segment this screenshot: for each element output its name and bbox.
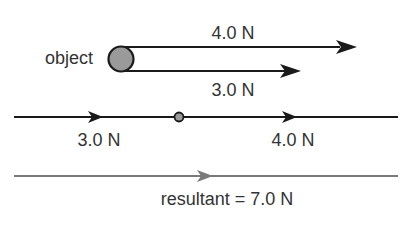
force-4n-label: 4.0 N [211,23,254,43]
resultant-label: resultant = 7.0 N [161,189,294,209]
object-forces-group: object 4.0 N 3.0 N [45,23,357,100]
object-circle [109,47,134,72]
combined-right-label: 4.0 N [271,130,314,150]
force-3n-label: 3.0 N [211,80,254,100]
combined-forces-group: 3.0 N 4.0 N [14,111,398,150]
force-diagram: object 4.0 N 3.0 N 3.0 N 4.0 N resultant… [0,0,416,225]
object-label: object [45,48,93,68]
combined-left-label: 3.0 N [77,130,120,150]
point-dot [175,113,184,122]
resultant-group: resultant = 7.0 N [14,170,398,209]
